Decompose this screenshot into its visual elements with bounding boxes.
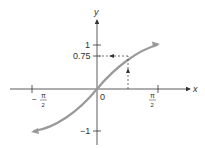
y-tick-label-neg-1: −1 bbox=[80, 126, 90, 136]
arrow-up-icon bbox=[126, 68, 130, 73]
x-tick-den-pos: 2 bbox=[151, 102, 155, 108]
sine-curve bbox=[34, 45, 157, 131]
y-axis-label: y bbox=[93, 7, 99, 17]
x-tick-num-pos: π bbox=[150, 92, 155, 99]
x-tick-den-neg: 2 bbox=[42, 102, 46, 108]
arrow-left-icon bbox=[109, 54, 114, 58]
y-tick-label-0.75: 0.75 bbox=[73, 51, 91, 61]
x-axis-label: x bbox=[192, 84, 198, 94]
curve-arrow-right bbox=[152, 42, 160, 48]
x-tick-sign-neg: − bbox=[32, 95, 37, 104]
sine-graph: y x 0 1 0.75 −1 − π 2 π 2 bbox=[0, 0, 205, 148]
origin-label: 0 bbox=[100, 92, 105, 102]
curve-arrow-left bbox=[31, 128, 39, 134]
x-tick-num-neg: π bbox=[41, 92, 46, 99]
y-tick-label-1: 1 bbox=[85, 40, 90, 50]
